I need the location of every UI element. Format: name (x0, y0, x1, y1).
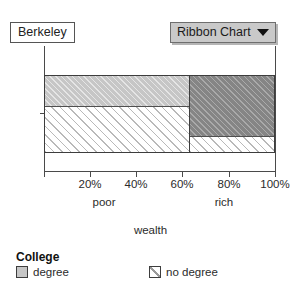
chevron-down-icon (257, 29, 269, 36)
x-tick-label-60: 60% (162, 178, 202, 191)
segment-divider-poor (45, 106, 189, 107)
x-axis-tick-60 (182, 172, 183, 177)
legend-item-degree[interactable]: degree (16, 266, 69, 278)
segment-rich-degree[interactable] (190, 76, 274, 136)
legend-swatch-degree-icon (16, 266, 28, 278)
chart-type-dropdown[interactable]: Ribbon Chart (170, 22, 276, 43)
segment-divider-rich (190, 136, 274, 137)
legend-label-degree: degree (33, 266, 69, 278)
x-anchor-label-rich: rich (201, 196, 247, 209)
x-tick-label-20: 20% (70, 178, 110, 191)
legend-swatch-no-degree-icon (149, 266, 161, 278)
legend-title: College (16, 250, 286, 264)
chart-legend: College degree no degree (16, 250, 286, 284)
segment-poor-no-degree[interactable] (45, 106, 189, 152)
x-axis-tick-80 (229, 172, 230, 177)
facet-label-text: Berkeley (18, 25, 67, 39)
column-rich[interactable] (189, 75, 275, 153)
legend-label-no-degree: no degree (166, 266, 218, 278)
x-tick-label-40: 40% (116, 178, 156, 191)
x-axis-title: wealth (0, 224, 301, 236)
x-tick-label-80: 80% (209, 178, 249, 191)
x-axis-tick-0 (44, 172, 45, 177)
legend-items: degree no degree (16, 266, 286, 284)
x-tick-label-100: 100% (253, 178, 297, 191)
segment-rich-no-degree[interactable] (190, 136, 274, 152)
plot-right-border (275, 46, 276, 172)
ribbon-chart-panel: Berkeley Ribbon Chart 20% 40% 60% (0, 0, 301, 285)
facet-label-berkeley[interactable]: Berkeley (10, 22, 75, 43)
x-axis-tick-100 (275, 172, 276, 177)
chart-bars (44, 75, 275, 153)
x-axis-line (44, 171, 276, 172)
x-axis-tick-20 (90, 172, 91, 177)
chart-type-value: Ribbon Chart (177, 25, 251, 39)
x-axis-tick-40 (136, 172, 137, 177)
legend-item-no-degree[interactable]: no degree (149, 266, 218, 278)
x-anchor-label-poor: poor (81, 196, 127, 209)
column-poor[interactable] (44, 75, 190, 153)
segment-poor-degree[interactable] (45, 76, 189, 106)
